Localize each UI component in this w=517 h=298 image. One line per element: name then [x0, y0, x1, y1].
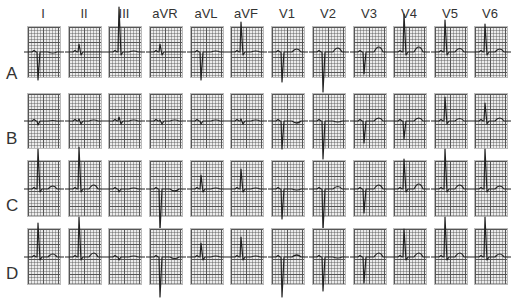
ecg-trace-icon — [309, 94, 349, 148]
ecg-trace-icon — [146, 27, 186, 77]
ecg-trace-icon — [268, 27, 308, 77]
ecg-trace-icon — [65, 27, 105, 77]
ecg-trace-icon — [390, 94, 430, 148]
ecg-panel-D-aVF — [230, 228, 264, 285]
ecg-panel-B-III — [108, 93, 142, 149]
ecg-trace-icon — [65, 229, 105, 284]
ecg-trace-icon — [350, 27, 390, 77]
lead-label-V2: V2 — [310, 6, 346, 21]
ecg-trace-icon — [146, 161, 186, 216]
ecg-trace-icon — [227, 229, 267, 284]
ecg-trace-icon — [309, 229, 349, 284]
ecg-trace-icon — [227, 94, 267, 148]
ecg-trace-icon — [187, 229, 227, 284]
ecg-trace-icon — [24, 229, 64, 284]
lead-label-III: III — [106, 6, 142, 21]
ecg-panel-D-V2 — [312, 228, 346, 285]
ecg-panel-D-V5 — [434, 228, 468, 285]
ecg-panel-B-aVF — [230, 93, 264, 149]
ecg-panel-C-V4 — [393, 160, 427, 217]
ecg-trace-icon — [24, 161, 64, 216]
ecg-trace-icon — [105, 27, 145, 77]
ecg-panel-A-aVL — [190, 26, 224, 78]
ecg-panel-A-V3 — [353, 26, 387, 78]
lead-label-V4: V4 — [391, 6, 427, 21]
ecg-panel-D-aVL — [190, 228, 224, 285]
lead-label-V1: V1 — [269, 6, 305, 21]
ecg-trace-icon — [471, 161, 511, 216]
ecg-trace-icon — [431, 229, 471, 284]
row-label-C: C — [6, 196, 18, 216]
lead-label-V6: V6 — [472, 6, 508, 21]
ecg-trace-icon — [268, 94, 308, 148]
ecg-trace-icon — [146, 229, 186, 284]
ecg-panel-A-V1 — [271, 26, 305, 78]
ecg-trace-icon — [24, 27, 64, 77]
ecg-trace-icon — [471, 27, 511, 77]
lead-label-V5: V5 — [432, 6, 468, 21]
ecg-panel-C-aVR — [149, 160, 183, 217]
ecg-trace-icon — [309, 161, 349, 216]
ecg-panel-A-aVF — [230, 26, 264, 78]
ecg-trace-icon — [227, 27, 267, 77]
lead-label-aVL: aVL — [188, 6, 224, 21]
ecg-trace-icon — [471, 94, 511, 148]
ecg-panel-A-aVR — [149, 26, 183, 78]
ecg-trace-icon — [309, 27, 349, 77]
ecg-panel-C-V1 — [271, 160, 305, 217]
ecg-trace-icon — [350, 94, 390, 148]
ecg-panel-C-II — [68, 160, 102, 217]
ecg-panel-A-V4 — [393, 26, 427, 78]
ecg-panel-B-aVL — [190, 93, 224, 149]
ecg-panel-D-I — [27, 228, 61, 285]
ecg-panel-C-aVL — [190, 160, 224, 217]
ecg-trace-icon — [65, 94, 105, 148]
row-label-B: B — [6, 129, 17, 149]
ecg-panel-B-V4 — [393, 93, 427, 149]
ecg-panel-C-V2 — [312, 160, 346, 217]
ecg-panel-C-I — [27, 160, 61, 217]
ecg-panel-B-I — [27, 93, 61, 149]
ecg-trace-icon — [24, 94, 64, 148]
ecg-panel-A-III — [108, 26, 142, 78]
ecg-trace-icon — [268, 229, 308, 284]
ecg-panel-C-III — [108, 160, 142, 217]
ecg-trace-icon — [390, 229, 430, 284]
ecg-trace-icon — [105, 229, 145, 284]
ecg-panel-B-V1 — [271, 93, 305, 149]
ecg-panel-C-V6 — [474, 160, 508, 217]
ecg-panel-B-V3 — [353, 93, 387, 149]
ecg-panel-B-V5 — [434, 93, 468, 149]
lead-label-II: II — [66, 6, 102, 21]
ecg-trace-icon — [227, 161, 267, 216]
ecg-trace-icon — [350, 161, 390, 216]
ecg-trace-icon — [268, 161, 308, 216]
ecg-trace-icon — [65, 161, 105, 216]
row-label-A: A — [6, 64, 17, 84]
ecg-panel-A-I — [27, 26, 61, 78]
ecg-trace-icon — [390, 27, 430, 77]
ecg-panel-C-V3 — [353, 160, 387, 217]
ecg-panel-B-II — [68, 93, 102, 149]
lead-label-I: I — [25, 6, 61, 21]
lead-label-aVF: aVF — [228, 6, 264, 21]
lead-label-aVR: aVR — [147, 6, 183, 21]
ecg-trace-icon — [187, 94, 227, 148]
ecg-trace-icon — [390, 161, 430, 216]
ecg-trace-icon — [350, 229, 390, 284]
ecg-trace-icon — [471, 229, 511, 284]
ecg-panel-A-II — [68, 26, 102, 78]
ecg-trace-icon — [105, 161, 145, 216]
ecg-panel-A-V6 — [474, 26, 508, 78]
ecg-panel-B-V6 — [474, 93, 508, 149]
ecg-panel-C-aVF — [230, 160, 264, 217]
ecg-panel-B-aVR — [149, 93, 183, 149]
ecg-panel-D-V1 — [271, 228, 305, 285]
ecg-panel-D-V4 — [393, 228, 427, 285]
ecg-panel-A-V2 — [312, 26, 346, 78]
ecg-panel-D-aVR — [149, 228, 183, 285]
ecg-panel-D-V6 — [474, 228, 508, 285]
ecg-trace-icon — [146, 94, 186, 148]
ecg-panel-A-V5 — [434, 26, 468, 78]
ecg-trace-icon — [431, 94, 471, 148]
